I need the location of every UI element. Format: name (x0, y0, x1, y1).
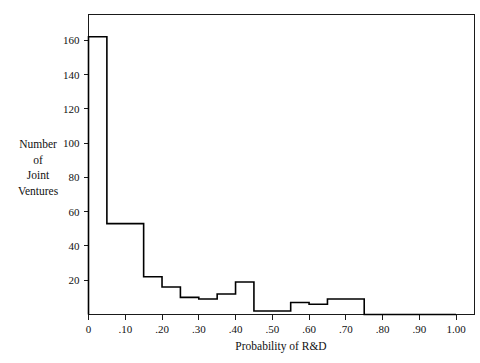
x-axis-tick-label: .40 (229, 323, 243, 335)
x-axis-title: Probability of R&D (235, 340, 326, 353)
y-axis-tick-label: 120 (63, 103, 80, 115)
y-axis-title-line: of (33, 154, 43, 166)
x-axis-tick-label: .90 (412, 323, 426, 335)
x-axis-tick-label: 1.00 (446, 323, 466, 335)
y-axis-tick-label: 140 (63, 69, 80, 81)
x-axis-tick-label: 0 (86, 323, 92, 335)
y-axis-tick-label: 80 (69, 171, 81, 183)
y-axis-title-line: Number (19, 138, 57, 150)
x-axis-tick-label: .20 (155, 323, 169, 335)
y-axis-tick-label: 100 (63, 137, 80, 149)
y-axis-tick-label: 160 (63, 34, 80, 46)
y-axis-tick-label: 20 (69, 274, 81, 286)
histogram-figure: 20406080100120140160 0.10.20.30.40.50.60… (0, 0, 480, 363)
y-axis-title-line: Joint (27, 169, 50, 181)
y-axis-tick-label: 60 (69, 206, 81, 218)
x-axis-tick-label: .50 (265, 323, 279, 335)
x-axis-tick-label: .70 (339, 323, 353, 335)
chart-canvas: 20406080100120140160 0.10.20.30.40.50.60… (0, 0, 480, 363)
y-axis-tick-label: 40 (69, 240, 81, 252)
x-axis-tick-label: .30 (192, 323, 206, 335)
x-axis-tick-label: .80 (376, 323, 390, 335)
y-axis-title-line: Ventures (18, 185, 59, 197)
x-axis-tick-label: .10 (118, 323, 132, 335)
x-axis-tick-label: .60 (302, 323, 316, 335)
